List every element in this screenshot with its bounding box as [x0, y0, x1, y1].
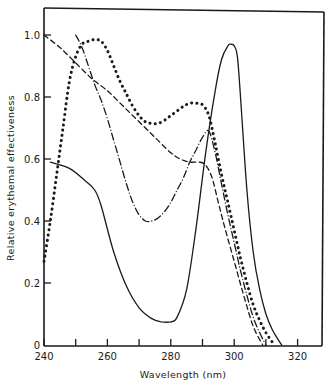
x-tick-label: 260	[98, 351, 117, 362]
series-solid	[50, 44, 281, 345]
x-tick-label: 300	[225, 351, 244, 362]
y-ticks: 00.20.40.60.81.0	[24, 30, 51, 351]
x-ticks: 240260280300320	[34, 339, 307, 362]
x-tick-label: 240	[34, 351, 53, 362]
series-dashed	[44, 35, 263, 345]
x-tick-label: 320	[288, 351, 307, 362]
x-axis-label: Wavelength (nm)	[140, 369, 227, 380]
y-axis-label: Relative erythemal effectiveness	[5, 95, 16, 261]
y-tick-label: 0	[34, 340, 40, 351]
y-tick-label: 0.4	[24, 216, 40, 227]
y-tick-label: 1.0	[24, 30, 40, 41]
top-border	[44, 8, 324, 12]
y-tick-label: 0.6	[24, 154, 40, 165]
y-tick-label: 0.8	[24, 92, 40, 103]
y-tick-label: 0.2	[24, 278, 40, 289]
x-tick-label: 280	[161, 351, 180, 362]
erythemal-effectiveness-chart: 240260280300320 00.20.40.60.81.0 Wavelen…	[0, 0, 334, 385]
right-border	[322, 12, 324, 346]
series-dash-dot	[76, 35, 266, 345]
series-dotted	[44, 40, 275, 345]
data-series	[44, 35, 282, 345]
